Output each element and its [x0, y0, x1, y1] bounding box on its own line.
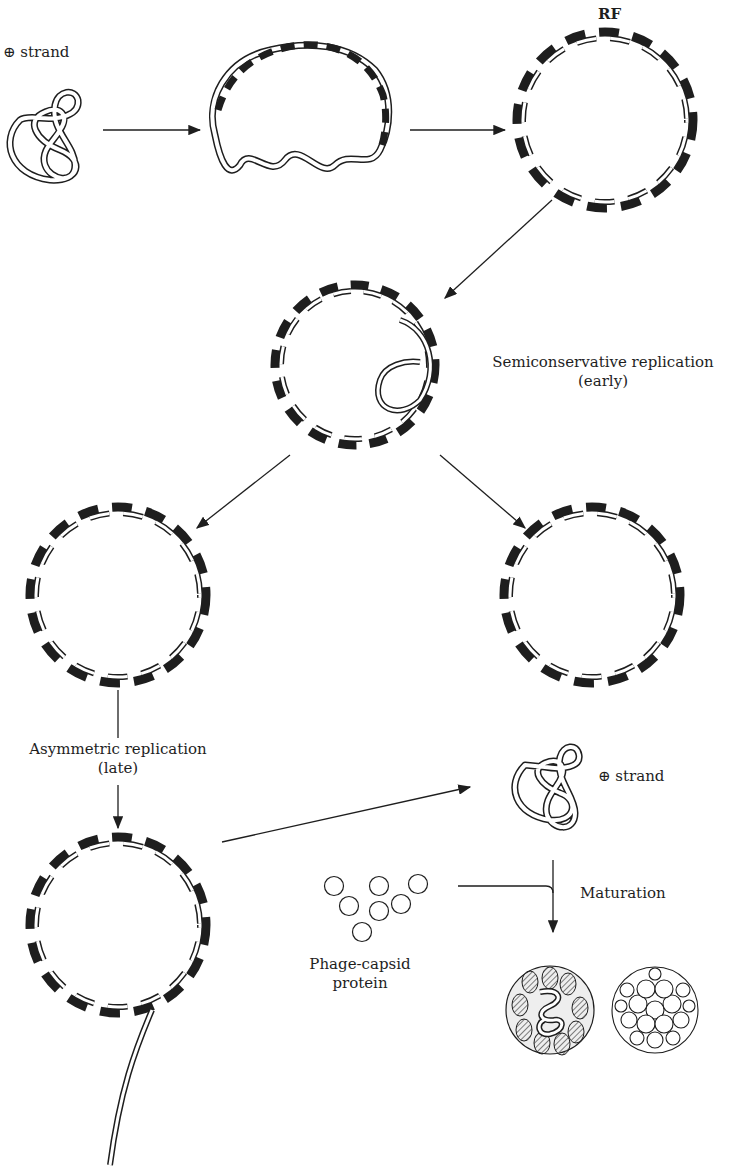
- rolling-circle-ring: [30, 837, 206, 1013]
- arrow-5: [440, 455, 525, 528]
- phage-particle: [612, 967, 698, 1053]
- asymmetric-label: Asymmetric replication: [0, 740, 236, 759]
- asymmetric-sublabel: (late): [0, 759, 236, 778]
- semiconservative-label: Semiconservative replication: [468, 353, 731, 372]
- rf-label: RF: [598, 5, 621, 24]
- capsid-protein-subunits: [325, 875, 428, 942]
- semiconservative-rings: [275, 285, 435, 445]
- diagram-canvas: [0, 0, 731, 1174]
- semiconservative-sublabel: (early): [468, 372, 731, 391]
- rf-ring: [517, 32, 693, 208]
- plus-strand-loop-top: [10, 92, 78, 180]
- plus-strand-loop-bottom: [515, 747, 579, 827]
- phage-particle-cutaway: [506, 966, 594, 1055]
- capsid-join-line: [458, 886, 553, 893]
- arrow-6: [222, 787, 470, 842]
- rf-ring-right: [504, 507, 680, 683]
- maturation-label: Maturation: [580, 884, 666, 903]
- plus-strand-label-top: ⊕ strand: [3, 43, 69, 62]
- arrow-3: [445, 200, 552, 298]
- capsid-label-line2: protein: [300, 974, 420, 993]
- plus-strand-label-bottom: ⊕ strand: [598, 767, 664, 786]
- arrow-4: [197, 455, 290, 528]
- rf-ring-left: [30, 507, 206, 683]
- capsid-label-line1: Phage-capsid: [300, 955, 420, 974]
- partial-duplex-ring: [212, 45, 388, 170]
- displaced-strand-tail: [110, 1010, 152, 1165]
